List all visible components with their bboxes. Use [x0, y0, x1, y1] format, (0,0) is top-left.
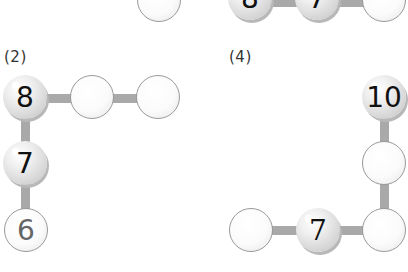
partial-empty-ball[interactable] — [137, 0, 181, 22]
number-ball: 8 — [3, 75, 47, 119]
number-ball: 7 — [296, 208, 340, 252]
answer-ball-empty[interactable] — [362, 141, 406, 185]
number-ball-outline: 6 — [4, 208, 48, 252]
answer-ball-empty[interactable] — [70, 75, 114, 119]
answer-ball-empty[interactable] — [229, 208, 273, 252]
answer-ball-empty[interactable] — [136, 75, 180, 119]
number-ball: 10 — [362, 75, 406, 119]
answer-ball-empty[interactable] — [362, 0, 406, 22]
puzzle-label: (4) — [229, 48, 252, 66]
number-ball: 7 — [295, 0, 339, 20]
answer-ball-empty[interactable] — [362, 208, 406, 252]
number-ball: 7 — [3, 141, 47, 185]
number-ball: 8 — [228, 0, 272, 20]
puzzle-label: (2) — [4, 48, 27, 66]
